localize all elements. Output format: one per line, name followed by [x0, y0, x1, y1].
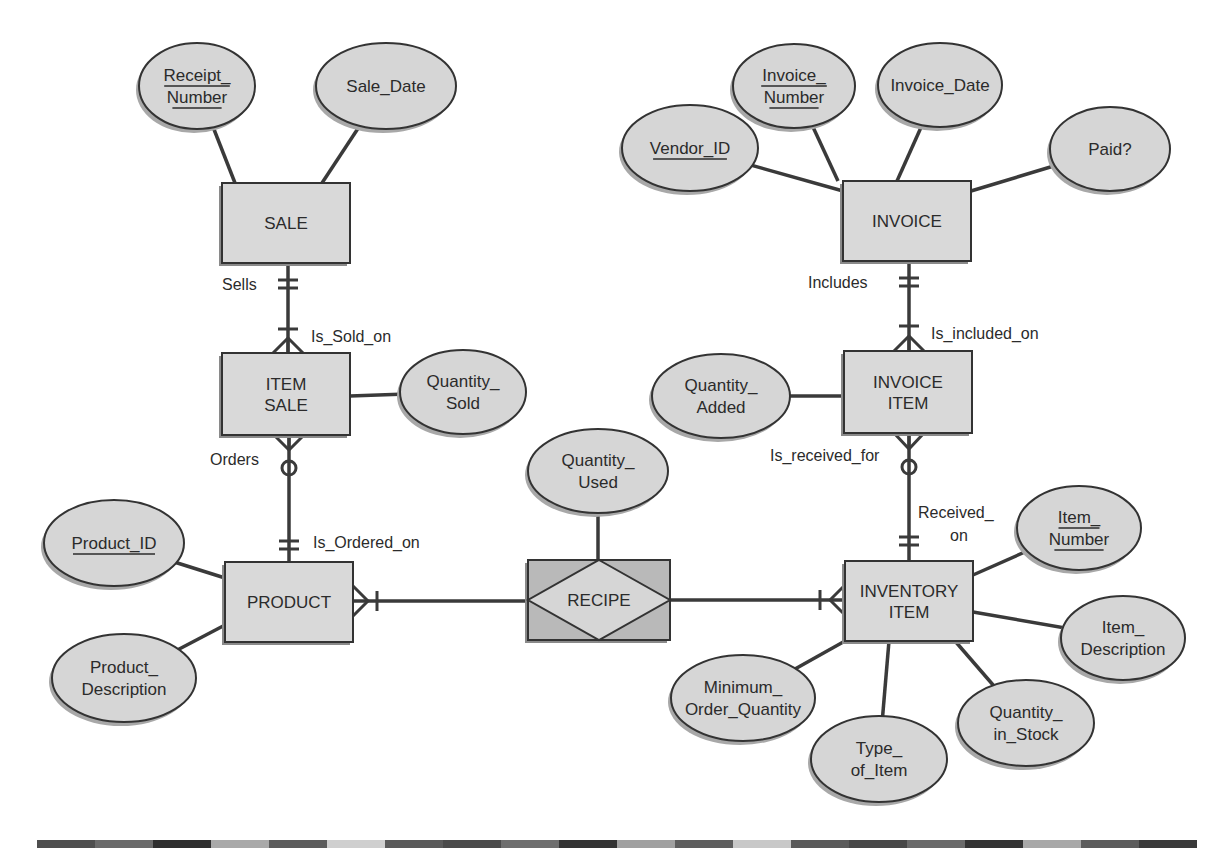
attribute-quantity-in-stock[interactable]: Quantity_in_Stock [955, 680, 1094, 770]
attribute-receipt-number[interactable]: Receipt_Number [136, 43, 255, 133]
attribute-label: Sold [446, 394, 480, 413]
color-bar-segment [269, 840, 327, 848]
attribute-quantity-added[interactable]: Quantity_Added [649, 354, 790, 442]
relationship-label-is-included-on: Is_included_on [931, 325, 1039, 343]
attribute-label: Invoice_Date [890, 76, 989, 95]
entity-label: RECIPE [567, 591, 630, 610]
attribute-product-description[interactable]: Product_Description [49, 634, 196, 726]
color-bar-segment [211, 840, 269, 848]
attribute-invoice-number[interactable]: Invoice_Number [730, 44, 855, 132]
attribute-label: Receipt_ [163, 66, 231, 85]
color-bar-segment [95, 840, 153, 848]
attribute-invoice-date[interactable]: Invoice_Date [875, 43, 1002, 131]
attribute-label: Quantity_ [427, 372, 500, 391]
color-bar-segment [849, 840, 907, 848]
color-bar-segment [733, 840, 791, 848]
entity-label: ITEM [889, 603, 930, 622]
color-bar-segment [907, 840, 965, 848]
attribute-label: Paid? [1088, 140, 1131, 159]
entity-invoice[interactable]: INVOICE [840, 181, 971, 264]
attribute-label: Vendor_ID [650, 139, 730, 158]
color-bar-segment [791, 840, 849, 848]
entity-label: INVOICE [873, 373, 943, 392]
attribute-label: Item_ [1102, 618, 1145, 637]
entity-label: PRODUCT [247, 593, 331, 612]
relationship-label-received-on-2: on [950, 527, 968, 544]
attribute-label: Number [1049, 530, 1110, 549]
er-diagram: SALEITEMSALEPRODUCTINVOICEINVOICEITEMINV… [0, 0, 1209, 854]
color-bar-segment [37, 840, 95, 848]
attribute-sale-date[interactable]: Sale_Date [313, 43, 456, 133]
attribute-product-id[interactable]: Product_ID [41, 500, 184, 590]
attribute-label: Added [696, 398, 745, 417]
entity-label: INVENTORY [860, 582, 959, 601]
attribute-label: Type_ [856, 739, 903, 758]
relationship-label-received-on-1: Received_ [918, 504, 995, 522]
attribute-label: Invoice_ [762, 66, 826, 85]
associative-entity-recipe[interactable]: RECIPE [525, 560, 670, 643]
entity-inventory-item[interactable]: INVENTORYITEM [842, 561, 973, 644]
color-bar-segment [501, 840, 559, 848]
attribute-item-description[interactable]: Item_Description [1058, 596, 1185, 684]
color-bar-segment [1081, 840, 1139, 848]
attribute-label: Product_ [90, 658, 159, 677]
attribute-label: in_Stock [993, 725, 1059, 744]
attribute-label: Sale_Date [346, 77, 425, 96]
diagram-shapes: SALEITEMSALEPRODUCTINVOICEINVOICEITEMINV… [41, 43, 1185, 806]
attribute-label: Description [1080, 640, 1165, 659]
attribute-label: Number [764, 88, 825, 107]
attribute-paid[interactable]: Paid? [1047, 107, 1170, 195]
entity-label: SALE [264, 396, 307, 415]
attribute-quantity-used[interactable]: Quantity_Used [525, 429, 668, 517]
attribute-item-number[interactable]: Item_Number [1014, 486, 1141, 574]
attribute-quantity-sold[interactable]: Quantity_Sold [397, 350, 526, 438]
attribute-label: Description [81, 680, 166, 699]
crow-foot-icon [273, 338, 303, 353]
attribute-minimum-order-quantity[interactable]: Minimum_Order_Quantity [668, 655, 815, 745]
attribute-label: of_Item [851, 761, 908, 780]
relationship-label-includes: Includes [808, 274, 868, 291]
entity-label: SALE [264, 214, 307, 233]
entity-sale[interactable]: SALE [219, 183, 350, 266]
entity-product[interactable]: PRODUCT [222, 562, 353, 645]
color-bar-segment [965, 840, 1023, 848]
attribute-label: Item_ [1058, 508, 1101, 527]
color-bar-segment [385, 840, 443, 848]
color-bar-segment [559, 840, 617, 848]
color-bar-segment [1139, 840, 1197, 848]
attribute-type-of-item[interactable]: Type_of_Item [808, 716, 947, 806]
entity-item-sale[interactable]: ITEMSALE [219, 353, 350, 438]
color-bar-segment [617, 840, 675, 848]
relationship-label-is-sold-on: Is_Sold_on [311, 328, 391, 346]
relationship-label-is-received-for: Is_received_for [770, 447, 880, 465]
entity-label: ITEM [266, 375, 307, 394]
color-bar-segment [675, 840, 733, 848]
entity-label: ITEM [888, 394, 929, 413]
attribute-label: Quantity_ [562, 451, 635, 470]
attribute-label: Number [167, 88, 228, 107]
attribute-label: Minimum_ [704, 678, 783, 697]
attribute-label: Order_Quantity [685, 700, 802, 719]
relationship-label-sells: Sells [222, 276, 257, 293]
color-bar-segment [443, 840, 501, 848]
entity-invoice-item[interactable]: INVOICEITEM [841, 351, 972, 436]
color-bar-segment [327, 840, 385, 848]
attribute-vendor-id[interactable]: Vendor_ID [619, 105, 758, 195]
crow-foot-icon [894, 336, 924, 351]
relationship-label-orders: Orders [210, 451, 259, 468]
attribute-label: Quantity_ [990, 703, 1063, 722]
attribute-label: Product_ID [71, 534, 156, 553]
attribute-label: Quantity_ [685, 376, 758, 395]
relationship-label-is-ordered-on: Is_Ordered_on [313, 534, 420, 552]
entity-label: INVOICE [872, 212, 942, 231]
attribute-label: Used [578, 473, 618, 492]
color-bar-segment [1023, 840, 1081, 848]
color-bar-segment [153, 840, 211, 848]
